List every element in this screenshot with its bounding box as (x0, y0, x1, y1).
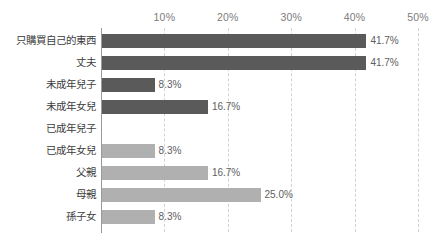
category-label: 丈夫 (0, 55, 96, 70)
x-tick-label: 10% (154, 11, 176, 23)
category-label: 未成年女兒 (0, 99, 96, 114)
category-label: 已成年女兒 (0, 143, 96, 158)
bar[interactable] (102, 210, 155, 224)
bar-row: 母親25.0% (0, 184, 432, 206)
category-label: 孫子女 (0, 209, 96, 224)
bar-value-label: 41.7% (370, 34, 398, 48)
bar-row: 已成年兒子 (0, 118, 432, 140)
x-tick-label: 50% (407, 11, 429, 23)
bar-row: 丈夫41.7% (0, 52, 432, 74)
bar-row: 孫子女8.3% (0, 206, 432, 228)
bar[interactable] (102, 78, 155, 92)
bar[interactable] (102, 34, 366, 48)
bar-value-label: 8.3% (159, 144, 182, 158)
bar-value-label: 8.3% (159, 78, 182, 92)
bar[interactable] (102, 166, 208, 180)
bar[interactable] (102, 56, 366, 70)
bar[interactable] (102, 144, 155, 158)
bar-value-label: 16.7% (212, 166, 240, 180)
bar-row: 已成年女兒8.3% (0, 140, 432, 162)
bar[interactable] (102, 188, 261, 202)
bar-row: 只購買自己的東西41.7% (0, 30, 432, 52)
bar-row: 父親16.7% (0, 162, 432, 184)
bar-value-label: 8.3% (159, 210, 182, 224)
bar-row: 未成年女兒16.7% (0, 96, 432, 118)
category-label: 未成年兒子 (0, 77, 96, 92)
bar[interactable] (102, 100, 208, 114)
x-tick-label: 20% (217, 11, 239, 23)
bar-value-label: 41.7% (370, 56, 398, 70)
category-label: 已成年兒子 (0, 121, 96, 136)
category-label: 只購買自己的東西 (0, 33, 96, 48)
category-label: 父親 (0, 165, 96, 180)
category-label: 母親 (0, 187, 96, 202)
bar-chart: 10%20%30%40%50% 只購買自己的東西41.7%丈夫41.7%未成年兒… (0, 0, 432, 249)
bar-row: 未成年兒子8.3% (0, 74, 432, 96)
bar-value-label: 25.0% (265, 188, 293, 202)
bar-value-label: 16.7% (212, 100, 240, 114)
x-tick-label: 30% (280, 11, 302, 23)
x-tick-label: 40% (344, 11, 366, 23)
